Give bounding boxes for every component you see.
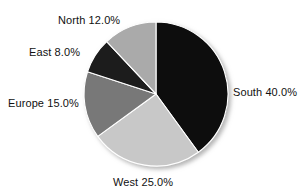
pie-chart: South 40.0% West 25.0% Europe 15.0% East…	[0, 0, 307, 195]
pie-slice-group	[84, 22, 228, 166]
pie-label-europe: Europe 15.0%	[8, 97, 79, 110]
pie-label-east: East 8.0%	[29, 46, 80, 59]
pie-label-south: South 40.0%	[233, 86, 297, 99]
pie-label-west: West 25.0%	[113, 176, 173, 189]
pie-label-north: North 12.0%	[58, 14, 120, 27]
